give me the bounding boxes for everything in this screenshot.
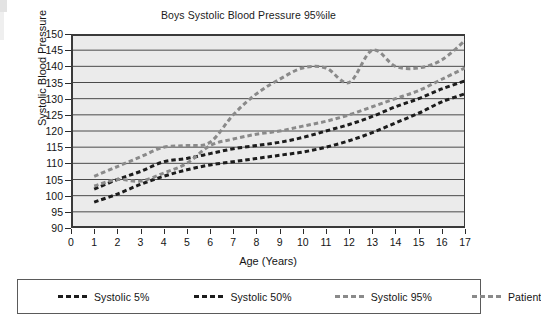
- x-axis-tick-label: 4: [152, 237, 176, 248]
- x-axis-tick-mark: [256, 229, 257, 234]
- series-line-systolic-5: [94, 94, 465, 202]
- x-axis-tick-mark: [187, 229, 188, 234]
- legend-label: Systolic 5%: [94, 291, 149, 303]
- y-axis-tick-label: 135: [29, 78, 63, 89]
- y-axis-tick-label: 105: [29, 175, 63, 186]
- legend-swatch-icon: [472, 295, 501, 298]
- x-axis-tick-label: 12: [337, 237, 361, 248]
- x-axis-tick-mark: [419, 229, 420, 234]
- legend-item-patient[interactable]: Patient: [472, 291, 541, 303]
- x-axis-tick-label: 8: [244, 237, 268, 248]
- y-axis-tick-label: 100: [29, 191, 63, 202]
- x-axis-tick-label: 0: [59, 237, 83, 248]
- chart-title: Boys Systolic Blood Pressure 95%ile: [0, 9, 497, 21]
- x-axis-tick-label: 13: [360, 237, 384, 248]
- y-axis-tick-label: 120: [29, 126, 63, 137]
- legend-item-systolic-50[interactable]: Systolic 50%: [194, 291, 291, 303]
- y-axis-tick-label: 130: [29, 94, 63, 105]
- series-line-patient: [94, 40, 465, 176]
- x-axis-tick-label: 2: [105, 237, 129, 248]
- x-axis-tick-label: 17: [453, 237, 477, 248]
- x-axis-tick-label: 3: [129, 237, 153, 248]
- x-axis-tick-label: 14: [383, 237, 407, 248]
- legend-swatch-icon: [58, 295, 87, 298]
- x-axis-tick-mark: [117, 229, 118, 234]
- x-axis-tick-label: 7: [221, 237, 245, 248]
- legend-item-systolic-95[interactable]: Systolic 95%: [335, 291, 432, 303]
- legend-swatch-icon: [335, 295, 364, 298]
- x-axis-tick-label: 10: [291, 237, 315, 248]
- y-axis-tick-label: 90: [29, 223, 63, 234]
- x-axis-tick-mark: [349, 229, 350, 234]
- x-axis-tick-label: 11: [314, 237, 338, 248]
- x-axis-tick-mark: [465, 229, 466, 234]
- legend-label: Systolic 95%: [371, 291, 432, 303]
- chart-legend: Systolic 5%Systolic 50%Systolic 95%Patie…: [17, 279, 481, 314]
- x-axis-tick-mark: [141, 229, 142, 234]
- x-axis-tick-mark: [372, 229, 373, 234]
- x-axis-tick-mark: [94, 229, 95, 234]
- x-axis-tick-label: 6: [198, 237, 222, 248]
- x-axis-tick-mark: [233, 229, 234, 234]
- x-axis-tick-label: 9: [268, 237, 292, 248]
- plot-lines: [71, 34, 465, 228]
- x-axis-tick-label: 15: [407, 237, 431, 248]
- x-axis-tick-mark: [303, 229, 304, 234]
- y-axis-tick-label: 110: [29, 158, 63, 169]
- x-axis-tick-mark: [164, 229, 165, 234]
- plot-area: [71, 34, 465, 228]
- y-axis-tick-label: 115: [29, 142, 63, 153]
- x-axis-tick-mark: [280, 229, 281, 234]
- y-axis-tick-label: 145: [29, 45, 63, 56]
- x-axis-tick-mark: [210, 229, 211, 234]
- y-axis-tick-label: 95: [29, 207, 63, 218]
- x-axis-tick-label: 16: [430, 237, 454, 248]
- x-axis-label: Age (Years): [71, 255, 465, 267]
- legend-label: Systolic 50%: [230, 291, 291, 303]
- x-axis-tick-mark: [442, 229, 443, 234]
- series-line-systolic-95: [94, 68, 465, 186]
- x-axis-tick-label: 5: [175, 237, 199, 248]
- x-axis-tick-label: 1: [82, 237, 106, 248]
- x-axis-tick-mark: [395, 229, 396, 234]
- legend-item-systolic-5[interactable]: Systolic 5%: [58, 291, 149, 303]
- x-axis-tick-mark: [326, 229, 327, 234]
- legend-label: Patient: [508, 291, 541, 303]
- y-axis-tick-label: 125: [29, 110, 63, 121]
- x-axis-tick-mark: [71, 229, 72, 234]
- y-axis-tick-label: 150: [29, 29, 63, 40]
- y-axis-tick-label: 140: [29, 61, 63, 72]
- legend-swatch-icon: [194, 295, 223, 298]
- series-line-systolic-50: [94, 81, 465, 189]
